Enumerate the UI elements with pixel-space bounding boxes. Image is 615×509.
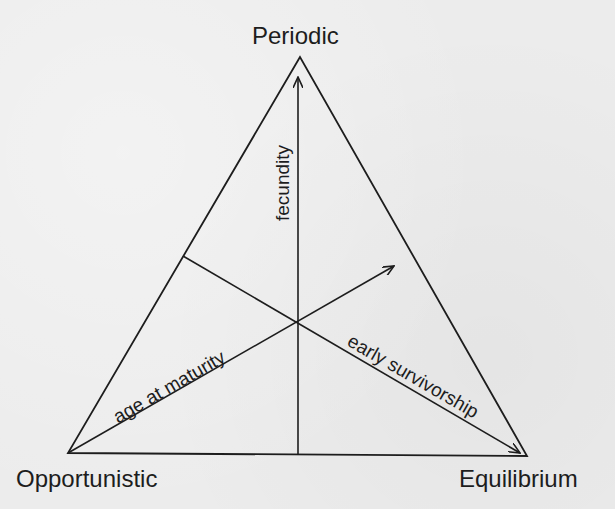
- vertex-label-periodic: Periodic: [252, 24, 339, 48]
- vertex-label-equilibrium: Equilibrium: [459, 467, 578, 491]
- age-at-maturity-arrow: [68, 266, 394, 453]
- axis-label-fecundity: fecundity: [273, 145, 292, 221]
- diagram-canvas: ​ Periodic Opportunistic Equilibrium fec…: [0, 0, 615, 509]
- life-history-triangle: [0, 0, 615, 509]
- vertex-label-opportunistic: Opportunistic: [16, 467, 157, 491]
